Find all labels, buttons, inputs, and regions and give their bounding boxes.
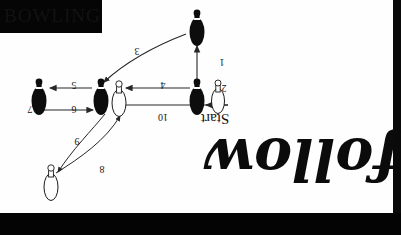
step-number-8: 8 [94,164,110,175]
step-number-6: 6 [66,104,82,115]
step-number-7: 7 [22,104,38,115]
script-word-follow: follow [228,118,398,200]
pin-center-white [112,81,126,117]
step-number-9: 9 [69,136,85,147]
start-label: Start [183,110,247,128]
bottom-black-bar [0,213,401,235]
step-number-10: 10 [155,112,171,123]
step-number-4: 4 [155,80,171,91]
pin-top [190,10,205,46]
pin-center-black [94,79,109,115]
step-number-3: 3 [129,46,145,57]
arrow-3 [104,34,186,82]
step-number-5: 5 [66,80,82,91]
screenshot-canvas: BOWLING [0,0,401,235]
step-number-1: 1 [214,57,230,68]
step-number-2: 2 [216,83,232,94]
arrow-8 [56,116,120,173]
pin-lower-white [44,165,58,201]
